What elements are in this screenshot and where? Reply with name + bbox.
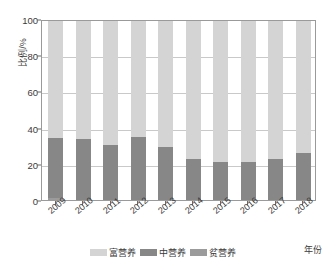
bar-stack[interactable] bbox=[158, 20, 173, 200]
bar-stack[interactable] bbox=[296, 20, 311, 200]
y-axis-tick-label: 60 bbox=[10, 87, 38, 98]
bar-segment[interactable] bbox=[48, 20, 63, 138]
chart-legend: 富营养中营养贫营养 bbox=[0, 246, 326, 259]
bar-segment[interactable] bbox=[158, 20, 173, 147]
bar-stack[interactable] bbox=[241, 20, 256, 200]
legend-item[interactable]: 贫营养 bbox=[190, 246, 236, 259]
legend-swatch-icon bbox=[90, 249, 107, 256]
bar-segment[interactable] bbox=[131, 20, 146, 137]
bar-segment[interactable] bbox=[186, 20, 201, 159]
plot-area bbox=[41, 20, 316, 201]
bar-stack[interactable] bbox=[76, 20, 91, 200]
legend-swatch-icon bbox=[140, 249, 157, 256]
bar-segment[interactable] bbox=[268, 20, 283, 159]
legend-label: 富营养 bbox=[109, 246, 136, 259]
y-axis-tick-label: 0 bbox=[10, 196, 38, 207]
y-axis-tick-label: 20 bbox=[10, 159, 38, 170]
bar-stack[interactable] bbox=[131, 20, 146, 200]
bar-stack[interactable] bbox=[268, 20, 283, 200]
legend-label: 贫营养 bbox=[209, 246, 236, 259]
bar-segment[interactable] bbox=[48, 138, 63, 199]
y-axis-tick-label: 100 bbox=[10, 15, 38, 26]
bar-segment[interactable] bbox=[76, 20, 91, 139]
bar-segment[interactable] bbox=[131, 137, 146, 200]
y-axis-tick-label: 40 bbox=[10, 123, 38, 134]
legend-swatch-icon bbox=[190, 249, 207, 256]
legend-item[interactable]: 富营养 bbox=[90, 246, 136, 259]
bars-layer bbox=[42, 21, 315, 200]
bar-segment[interactable] bbox=[186, 159, 201, 200]
bar-segment[interactable] bbox=[103, 20, 118, 145]
bar-stack[interactable] bbox=[186, 20, 201, 200]
bar-segment[interactable] bbox=[158, 147, 173, 200]
bar-segment[interactable] bbox=[76, 139, 91, 200]
legend-item[interactable]: 中营养 bbox=[140, 246, 186, 259]
bar-stack[interactable] bbox=[103, 20, 118, 200]
bar-segment[interactable] bbox=[213, 20, 228, 162]
stacked-bar-chart: 比例/% 020406080100 2009201020112012201320… bbox=[0, 0, 326, 266]
bar-segment[interactable] bbox=[103, 145, 118, 200]
bar-stack[interactable] bbox=[213, 20, 228, 200]
legend-label: 中营养 bbox=[159, 246, 186, 259]
bar-segment[interactable] bbox=[241, 20, 256, 162]
bar-segment[interactable] bbox=[296, 20, 311, 153]
y-axis-tick-label: 80 bbox=[10, 51, 38, 62]
bar-segment[interactable] bbox=[296, 153, 311, 200]
bar-stack[interactable] bbox=[48, 20, 63, 200]
